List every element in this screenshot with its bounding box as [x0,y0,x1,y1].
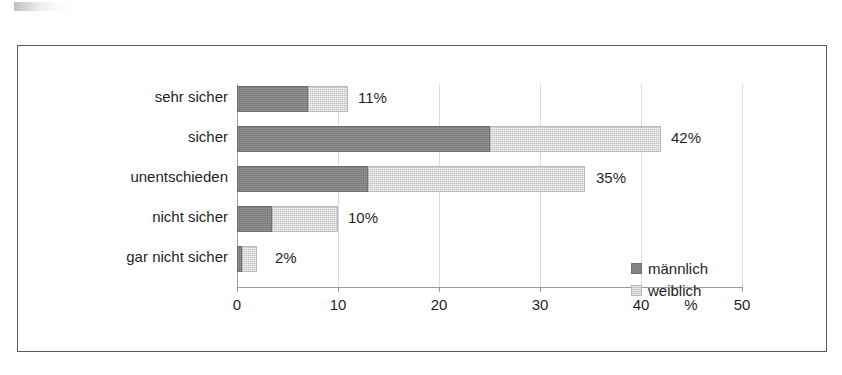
bar-value-label: 2% [275,249,297,266]
scan-artifact [14,2,76,11]
bar-segment-weiblich [242,246,257,272]
category-label-gar-nicht-sicher: gar nicht sicher [126,248,228,265]
gridline-50 [742,84,743,287]
bar-segment-weiblich [272,206,338,232]
category-label-unentschieden: unentschieden [130,168,228,185]
chart-frame: sehr sicher sicher unentschieden nicht s… [17,45,827,352]
bar-segment-maennlich [237,126,490,152]
gridline-40 [641,84,642,287]
category-label-sehr-sicher: sehr sicher [155,88,228,105]
bar-segment-weiblich [490,126,662,152]
x-tick-label-0: 0 [233,296,241,313]
legend-swatch-maennlich-icon [631,263,642,274]
category-label-sicher: sicher [188,128,228,145]
legend-item-weiblich: weiblich [631,280,708,300]
bar-value-label: 10% [348,209,378,226]
bar-segment-weiblich [368,166,585,192]
bar-value-label: 35% [596,169,626,186]
x-tick-label-20: 20 [431,296,448,313]
x-tick-20 [439,287,440,292]
category-label-nicht-sicher: nicht sicher [152,208,228,225]
bar-segment-maennlich [237,166,368,192]
category-axis-labels: sehr sicher sicher unentschieden nicht s… [48,84,228,287]
bar-segment-maennlich [237,206,272,232]
bar-value-label: 11% [358,89,387,106]
x-tick-label-50: 50 [734,296,751,313]
plot-area: 11% 42% 35% 10% 2% [237,84,760,287]
legend-label-maennlich: männlich [648,260,708,277]
bar-value-label: 42% [671,129,701,146]
x-tick-0 [237,287,238,292]
legend-item-maennlich: männlich [631,258,708,278]
legend-swatch-weiblich-icon [631,285,642,296]
x-tick-50 [742,287,743,292]
bar-segment-maennlich [237,86,308,112]
x-tick-30 [540,287,541,292]
x-tick-10 [338,287,339,292]
bar-segment-weiblich [308,86,348,112]
x-tick-label-10: 10 [330,296,347,313]
legend: männlich weiblich [631,258,708,302]
legend-label-weiblich: weiblich [648,282,701,299]
x-tick-label-30: 30 [532,296,549,313]
